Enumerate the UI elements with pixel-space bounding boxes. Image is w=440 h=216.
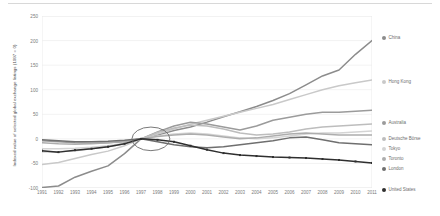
series-marker bbox=[206, 149, 208, 151]
series-marker bbox=[58, 151, 60, 153]
x-tick-label: 2001 bbox=[202, 190, 212, 195]
x-tick-label: 1995 bbox=[103, 190, 113, 195]
legend-label: United States bbox=[389, 187, 416, 192]
y-tick-label: -50 bbox=[31, 161, 38, 166]
y-tick-label: 200 bbox=[30, 38, 38, 43]
legend-item[interactable]: Toronto bbox=[382, 156, 404, 161]
legend-item[interactable]: Hong Kong bbox=[382, 79, 411, 84]
x-tick-label: 2006 bbox=[284, 190, 294, 195]
y-axis-tick-labels: 250200150100500-50-100 bbox=[14, 16, 40, 188]
series-marker bbox=[190, 145, 192, 147]
chart-svg bbox=[42, 16, 372, 188]
chart-legend: ChinaHong KongAustraliaDeutsche BörseTok… bbox=[382, 16, 440, 196]
chart-page: Indexed value of selected global exchang… bbox=[0, 0, 440, 216]
legend-label: Tokyo bbox=[389, 146, 401, 151]
x-tick-label: 2010 bbox=[350, 190, 360, 195]
x-tick-label: 2011 bbox=[367, 190, 377, 195]
series-marker bbox=[107, 146, 109, 148]
legend-item[interactable]: Australia bbox=[382, 120, 406, 125]
x-tick-label: 1991 bbox=[37, 190, 47, 195]
x-tick-label: 1997 bbox=[136, 190, 146, 195]
series-marker bbox=[305, 157, 307, 159]
y-tick-label: 100 bbox=[30, 87, 38, 92]
legend-label: China bbox=[389, 35, 401, 40]
x-tick-label: 1993 bbox=[70, 190, 80, 195]
legend-label: Australia bbox=[389, 120, 407, 125]
x-tick-label: 2000 bbox=[185, 190, 195, 195]
series-marker bbox=[91, 148, 93, 150]
legend-item[interactable]: United States bbox=[382, 187, 416, 192]
legend-label: Hong Kong bbox=[389, 79, 412, 84]
x-tick-label: 2008 bbox=[317, 190, 327, 195]
legend-swatch-icon bbox=[382, 147, 386, 151]
x-axis-tick-labels: 1991199219931994199519961997199819992000… bbox=[42, 190, 372, 206]
x-tick-label: 2007 bbox=[301, 190, 311, 195]
series-marker bbox=[338, 159, 340, 161]
series-marker bbox=[157, 139, 159, 141]
x-tick-label: 2003 bbox=[235, 190, 245, 195]
plot-area bbox=[42, 16, 372, 188]
y-tick-label: 250 bbox=[30, 14, 38, 19]
legend-swatch-icon bbox=[382, 167, 386, 171]
x-tick-label: 1996 bbox=[119, 190, 129, 195]
y-tick-label: 150 bbox=[30, 63, 38, 68]
x-tick-label: 2002 bbox=[218, 190, 228, 195]
legend-swatch-icon bbox=[382, 157, 386, 161]
x-tick-label: 2004 bbox=[251, 190, 261, 195]
series-marker bbox=[371, 162, 372, 164]
legend-item[interactable]: Tokyo bbox=[382, 146, 400, 151]
series-marker bbox=[322, 158, 324, 160]
legend-item[interactable]: Deutsche Börse bbox=[382, 136, 421, 141]
legend-item[interactable]: China bbox=[382, 35, 400, 40]
series-marker bbox=[74, 149, 76, 151]
x-tick-label: 1999 bbox=[169, 190, 179, 195]
series-marker bbox=[42, 150, 43, 152]
legend-swatch-icon bbox=[382, 188, 386, 192]
legend-label: Deutsche Börse bbox=[389, 136, 421, 141]
y-tick-label: 50 bbox=[33, 112, 38, 117]
y-tick-label: 0 bbox=[35, 136, 38, 141]
top-divider bbox=[8, 3, 432, 4]
series-marker bbox=[355, 160, 357, 162]
series-marker bbox=[140, 138, 142, 140]
legend-swatch-icon bbox=[382, 121, 386, 125]
series-marker bbox=[272, 156, 274, 158]
series-marker bbox=[124, 143, 126, 145]
x-tick-label: 1998 bbox=[152, 190, 162, 195]
legend-label: London bbox=[389, 166, 404, 171]
x-tick-label: 2009 bbox=[334, 190, 344, 195]
legend-label: Toronto bbox=[389, 156, 404, 161]
x-tick-label: 1994 bbox=[86, 190, 96, 195]
series-marker bbox=[223, 152, 225, 154]
legend-swatch-icon bbox=[382, 80, 386, 84]
series-marker bbox=[289, 157, 291, 159]
x-tick-label: 2005 bbox=[268, 190, 278, 195]
plot-frame bbox=[42, 16, 372, 188]
legend-swatch-icon bbox=[382, 137, 386, 141]
legend-swatch-icon bbox=[382, 36, 386, 40]
series-marker bbox=[239, 154, 241, 156]
series-marker bbox=[173, 141, 175, 143]
series-marker bbox=[256, 155, 258, 157]
legend-item[interactable]: London bbox=[382, 166, 404, 171]
x-tick-label: 1992 bbox=[53, 190, 63, 195]
